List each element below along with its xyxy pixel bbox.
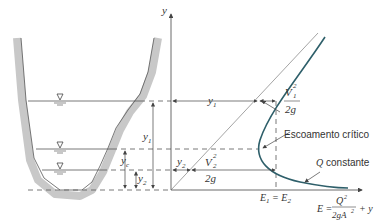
svg-text:2: 2 xyxy=(213,152,217,160)
critical-flow-label: Escoamento crítico xyxy=(284,129,369,140)
specific-energy-diagram: y y1 yc y2 y1 y2 V 2 1 2g V 2 2 2g Escoa… xyxy=(0,0,387,222)
y1-channel-label: y1 xyxy=(142,130,151,145)
svg-text:V: V xyxy=(205,156,213,168)
svg-text:2gA: 2gA xyxy=(332,210,347,220)
svg-text:E =: E = xyxy=(316,203,332,214)
v1-velocity-head-label: V 2 1 2g xyxy=(284,82,300,115)
svg-text:2g: 2g xyxy=(205,172,217,184)
y1-diagram-label: y1 xyxy=(207,94,216,109)
e1-equals-e2-label: E1 = E2 xyxy=(259,192,291,205)
q-constant-label: Q constante xyxy=(316,157,370,168)
energy-dimensions xyxy=(173,101,320,182)
svg-text:2: 2 xyxy=(351,208,354,214)
y2-channel-label: y2 xyxy=(137,172,147,187)
svg-text:V: V xyxy=(285,86,293,98)
water-symbol-icon xyxy=(54,163,66,174)
y2-diagram-label: y2 xyxy=(176,155,186,170)
svg-text:Q: Q xyxy=(336,195,344,206)
svg-text:2g: 2g xyxy=(285,103,297,115)
water-symbol-icon xyxy=(54,142,66,153)
dashed-guides xyxy=(28,101,276,190)
svg-text:2: 2 xyxy=(293,82,297,90)
water-symbol-icon xyxy=(54,94,66,105)
energy-equation-label: E = Q 2 2gA 2 + y xyxy=(316,194,373,220)
yc-label: yc xyxy=(120,154,130,169)
channel-cross-section xyxy=(17,38,158,196)
svg-text:2: 2 xyxy=(213,162,217,170)
svg-text:+ y: + y xyxy=(359,203,373,214)
svg-text:1: 1 xyxy=(293,92,297,100)
v2-velocity-head-label: V 2 2 2g xyxy=(205,152,217,184)
svg-text:2: 2 xyxy=(344,194,347,200)
channel-wall xyxy=(17,38,158,196)
y-axis-label: y xyxy=(161,4,167,16)
